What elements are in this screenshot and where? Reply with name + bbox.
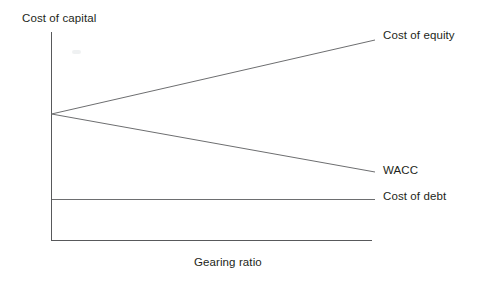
wacc-label: WACC bbox=[383, 164, 418, 177]
scan-artifact bbox=[72, 50, 81, 54]
cost-of-equity-line bbox=[52, 40, 376, 114]
cost-of-debt-label: Cost of debt bbox=[383, 190, 446, 203]
chart-plot-area bbox=[0, 0, 486, 286]
cost-of-capital-gearing-chart: Cost of capital Cost of equity WACC Cost… bbox=[0, 0, 486, 286]
cost-of-equity-label: Cost of equity bbox=[383, 29, 455, 42]
x-axis-label: Gearing ratio bbox=[194, 256, 262, 269]
y-axis-label: Cost of capital bbox=[22, 12, 96, 25]
wacc-line bbox=[52, 114, 376, 172]
